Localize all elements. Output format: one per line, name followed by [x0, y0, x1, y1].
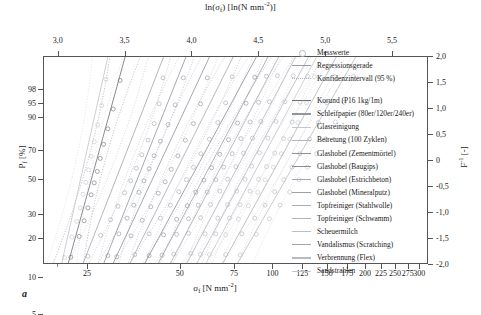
y-tick-label-right: 1,5: [436, 78, 446, 87]
legend-line-icon: [292, 227, 311, 236]
y-tick-left: [38, 150, 43, 151]
legend-line-icon: [292, 267, 311, 276]
top-axis-title-suffix: ) [ln(N mm: [222, 2, 264, 12]
x-tick-label-top: 4,5: [253, 36, 263, 45]
legend-item-label: Korund (P16 1kg/1m): [317, 97, 382, 104]
legend-item[interactable]: Glashobel (Baugips): [292, 160, 427, 173]
right-axis-superscript: -1: [457, 157, 464, 162]
legend-item[interactable]: Glashobel (Estrichbeton): [292, 173, 427, 186]
legend-line-icon: [292, 136, 311, 145]
legend-item-label: Glashobel (Estrichbeton): [317, 176, 391, 183]
legend-spacer: [292, 85, 427, 94]
y-tick-left: [38, 117, 43, 118]
series-group: [114, 57, 249, 264]
legend-item-label: Vandalismus (Scratching): [317, 241, 393, 248]
y-tick-right: [428, 56, 433, 57]
legend-marker-icon: [292, 48, 311, 57]
top-axis-title-subscript: f: [220, 6, 222, 13]
legend-item-label: Glashobel (Mineralputz): [317, 189, 390, 196]
series-group: [46, 57, 123, 264]
legend: MesswerteRegressionsgeradeKonfidenzinter…: [292, 46, 427, 278]
y-tick-label-left: 20: [28, 233, 36, 242]
legend-item[interactable]: Betretung (100 Zyklen): [292, 134, 427, 147]
y-tick-label-left: 90: [28, 112, 36, 121]
y-tick-label-left: 50: [28, 175, 36, 184]
y-tick-left: [38, 277, 43, 278]
right-axis-symbol: F: [459, 163, 469, 168]
legend-item[interactable]: Topfreiniger (Schwamm): [292, 212, 427, 225]
legend-item-label: Scheuermilch: [317, 228, 358, 235]
legend-item[interactable]: Glashobel (Mineralputz): [292, 186, 427, 199]
y-tick-right: [428, 186, 433, 187]
x-tick-label-bottom: 50: [176, 269, 184, 278]
y-tick-left: [38, 179, 43, 180]
series-group: [88, 57, 201, 264]
panel-label: a: [22, 288, 27, 299]
x-tick-label-bottom: 25: [83, 269, 91, 278]
legend-line-icon: [292, 96, 311, 105]
x-tick-minor-bottom: [57, 264, 58, 267]
legend-item[interactable]: Glasreinigung: [292, 120, 427, 133]
legend-item[interactable]: Regressionsgerade: [292, 59, 427, 72]
legend-line-icon: [292, 240, 311, 249]
legend-item-label: Messwerte: [317, 49, 349, 56]
legend-item[interactable]: Glashobel (Zementmörtel): [292, 147, 427, 160]
y-tick-label-right: -1,0: [436, 208, 449, 217]
top-axis-title-end: )]: [270, 2, 276, 12]
y-tick-right: [428, 82, 433, 83]
legend-item[interactable]: Verbrennung (Flex): [292, 251, 427, 264]
y-tick-label-right: -0,5: [436, 182, 449, 191]
legend-item-label: Konfidenzintervall (95 %): [317, 75, 395, 82]
legend-item[interactable]: Sandstrahlen: [292, 265, 427, 278]
legend-item[interactable]: Schleifpapier (80er/120er/240er): [292, 107, 427, 120]
x-tick-label-top: 3,0: [53, 36, 63, 45]
legend-item[interactable]: Messwerte: [292, 46, 427, 59]
legend-item-label: Schleifpapier (80er/120er/240er): [317, 110, 414, 117]
y-tick-label-right: -1,5: [436, 234, 449, 243]
y-tick-right: [428, 134, 433, 135]
legend-item-label: Betretung (100 Zyklen): [317, 136, 387, 143]
series-group: [129, 57, 272, 264]
y-tick-right: [428, 160, 433, 161]
left-axis-symbol: P: [17, 163, 27, 168]
legend-item-label: Topfreiniger (Schwamm): [317, 215, 392, 222]
y-tick-label-right: 2,0: [436, 52, 446, 61]
legend-item-label: Regressionsgerade: [317, 62, 372, 69]
legend-item[interactable]: Topfreiniger (Stahlwolle): [292, 199, 427, 212]
bottom-axis-unit-open: [N mm: [200, 283, 228, 293]
weibull-probability-plot: ln(σf) [ln(N mm-2)] 3,03,54,04,55,05,525…: [0, 0, 481, 315]
x-tick-top: [191, 51, 192, 56]
y-tick-right: [428, 108, 433, 109]
x-tick-label-top: 4,0: [186, 36, 196, 45]
y-tick-label-right: 1,0: [436, 104, 446, 113]
legend-item[interactable]: Korund (P16 1kg/1m): [292, 94, 427, 107]
legend-item[interactable]: Konfidenzintervall (95 %): [292, 72, 427, 85]
y-tick-label-right: 0: [436, 156, 440, 165]
legend-line-icon: [292, 253, 311, 262]
x-tick-top: [258, 51, 259, 56]
left-axis-unit: [%]: [17, 146, 27, 162]
y-tick-label-left: 95: [28, 98, 36, 107]
bottom-axis-title: σf [N mm-2]: [0, 283, 430, 293]
y-tick-left: [38, 214, 43, 215]
x-tick-label-bottom: 100: [266, 269, 278, 278]
y-tick-left: [38, 103, 43, 104]
x-tick-label-top: 5,5: [387, 36, 397, 45]
legend-line-icon: [292, 188, 311, 197]
legend-line-icon: [292, 61, 311, 70]
x-tick-top: [125, 51, 126, 56]
legend-item[interactable]: Scheuermilch: [292, 225, 427, 238]
legend-line-icon: [292, 162, 311, 171]
y-tick-right: [428, 212, 433, 213]
y-tick-right: [428, 264, 433, 265]
x-tick-top: [58, 51, 59, 56]
x-tick-label-top: 3,5: [120, 36, 130, 45]
legend-line-icon: [292, 109, 311, 118]
y-tick-label-right: -2,0: [436, 260, 449, 269]
left-axis-caption: Pf [%]: [17, 127, 27, 187]
legend-item[interactable]: Vandalismus (Scratching): [292, 238, 427, 251]
y-tick-label-right: 0,5: [436, 130, 446, 139]
x-tick-label-bottom: 75: [230, 269, 238, 278]
y-tick-right: [428, 238, 433, 239]
x-tick-label-top: 5,0: [320, 36, 330, 45]
